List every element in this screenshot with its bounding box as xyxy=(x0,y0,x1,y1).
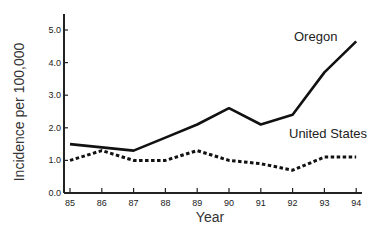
x-tick-label: 87 xyxy=(129,198,139,208)
x-tick-label: 89 xyxy=(192,198,202,208)
x-tick-label: 94 xyxy=(351,198,361,208)
x-tick-label: 88 xyxy=(160,198,170,208)
y-tick-label: 1.0 xyxy=(48,155,61,165)
y-axis-title-text: Incidence per 100,000 xyxy=(11,43,27,182)
y-tick-label: 5.0 xyxy=(48,25,61,35)
series-label-united-states: United States xyxy=(289,126,368,141)
y-tick-label: 4.0 xyxy=(48,58,61,68)
y-axis-title: Incidence per 100,000 xyxy=(11,43,27,182)
x-tick-label: 92 xyxy=(288,198,298,208)
x-tick-label: 93 xyxy=(319,198,329,208)
x-tick-label: 86 xyxy=(97,198,107,208)
y-tick-label: 2.0 xyxy=(48,123,61,133)
series-lines xyxy=(70,41,356,170)
line-chart: Incidence per 100,000 Year 0.01.02.03.04… xyxy=(0,0,388,236)
series-line-united-states xyxy=(70,151,356,171)
y-tick-label: 3.0 xyxy=(48,90,61,100)
x-tick-label: 90 xyxy=(224,198,234,208)
x-axis-title: Year xyxy=(196,209,225,225)
x-tick-label: 91 xyxy=(256,198,266,208)
y-tick-label: 0.0 xyxy=(48,188,61,198)
ticks: 0.01.02.03.04.05.085868788899091929394 xyxy=(48,25,361,208)
series-label-oregon: Oregon xyxy=(294,29,337,44)
x-tick-label: 85 xyxy=(65,198,75,208)
